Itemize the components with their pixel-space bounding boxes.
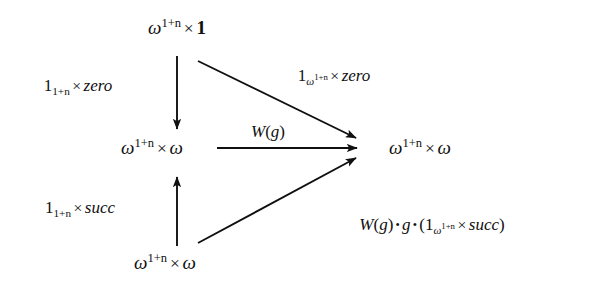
label-diagonal-top-symbol: 1 xyxy=(298,66,307,85)
label-diagonal-bottom-morphism: succ xyxy=(469,215,499,234)
label-diagonal-top-operator: × xyxy=(328,67,342,84)
node-top-operator: × xyxy=(181,18,196,38)
label-diagonal-bottom: W(g)•g•(1ω1+n×succ) xyxy=(359,216,504,233)
label-diagonal-bottom-operator: × xyxy=(455,216,469,233)
node-middle-right-operand: ω xyxy=(438,137,451,158)
node-middle-right: ω1+n×ω xyxy=(389,138,451,157)
node-middle-left: ω1+n×ω xyxy=(121,138,183,157)
node-middle-left-operand: ω xyxy=(170,137,183,158)
label-diagonal-bottom-compose-1: • xyxy=(393,217,402,231)
label-left-bottom-symbol: 1 xyxy=(45,198,54,217)
node-middle-right-exponent: 1+n xyxy=(402,136,422,150)
label-diagonal-top-subscript: ω1+n xyxy=(306,75,328,87)
commutative-diagram: ω1+n×1 ω1+n×ω ω1+n×ω ω1+n×ω 11+n×zero 11… xyxy=(0,0,608,286)
label-horizontal: W(g) xyxy=(251,123,285,140)
label-diagonal-bottom-middle: g xyxy=(402,215,411,234)
label-diagonal-top: 1ω1+n×zero xyxy=(298,67,371,84)
label-horizontal-functor: W xyxy=(251,122,265,141)
label-left-bottom-morphism: succ xyxy=(85,198,115,217)
label-horizontal-close-paren: ) xyxy=(279,122,285,141)
label-diagonal-bottom-subscript: ω1+n xyxy=(433,224,455,236)
label-left-bottom-subscript: 1+n xyxy=(53,207,71,219)
node-middle-right-operator: × xyxy=(422,138,437,158)
label-left-top-symbol: 1 xyxy=(44,76,53,95)
label-diagonal-bottom-symbol: 1 xyxy=(425,215,434,234)
node-bottom: ω1+n×ω xyxy=(134,253,196,272)
node-middle-left-operator: × xyxy=(154,138,169,158)
arrow-bottom-to-middle-right xyxy=(198,158,356,243)
label-diagonal-bottom-subscript-base: ω xyxy=(433,224,441,236)
node-bottom-operand: ω xyxy=(183,252,196,273)
node-top-base: ω xyxy=(148,17,161,38)
label-left-top-morphism: zero xyxy=(84,76,113,95)
label-diagonal-bottom-compose-2: • xyxy=(411,217,420,231)
node-middle-left-exponent: 1+n xyxy=(134,136,154,150)
label-diagonal-bottom-subscript-exponent: 1+n xyxy=(441,221,455,231)
label-diagonal-bottom-functor: W xyxy=(359,215,373,234)
node-bottom-base: ω xyxy=(134,252,147,273)
label-left-top-subscript: 1+n xyxy=(52,85,70,97)
node-bottom-operator: × xyxy=(167,253,182,273)
node-middle-right-base: ω xyxy=(389,137,402,158)
label-left-top: 11+n×zero xyxy=(44,77,113,94)
node-middle-left-base: ω xyxy=(121,137,134,158)
label-diagonal-top-morphism: zero xyxy=(342,66,371,85)
label-left-top-operator: × xyxy=(70,77,84,94)
node-top-exponent: 1+n xyxy=(161,16,181,30)
label-diagonal-top-subscript-exponent: 1+n xyxy=(314,72,328,82)
label-left-bottom-operator: × xyxy=(71,199,85,216)
label-left-bottom: 11+n×succ xyxy=(45,199,115,216)
node-top-operand: 1 xyxy=(196,17,206,38)
node-top: ω1+n×1 xyxy=(148,18,206,37)
node-bottom-exponent: 1+n xyxy=(147,251,167,265)
arrow-layer xyxy=(0,0,608,286)
label-diagonal-bottom-group-close: ) xyxy=(499,215,505,234)
